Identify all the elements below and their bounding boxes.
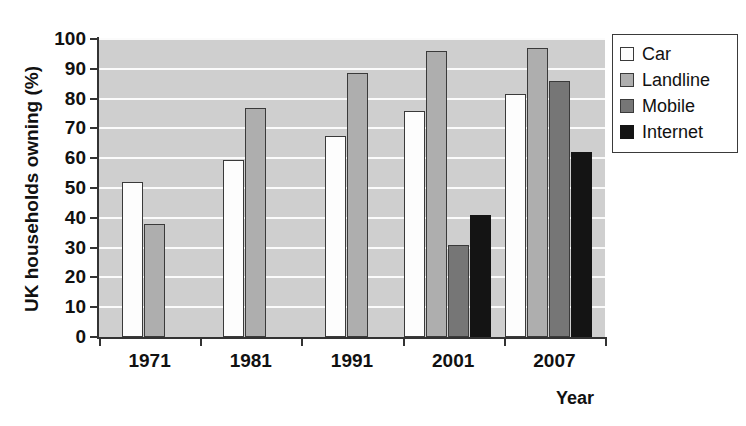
legend-item-mobile: Mobile — [620, 93, 730, 119]
y-tick-mark — [90, 306, 98, 308]
legend-swatch-landline-icon — [620, 73, 634, 87]
y-tick-label: 90 — [26, 59, 86, 78]
bar-chart: UK households owning (%) 010203040506070… — [0, 0, 746, 426]
y-tick-label: 80 — [26, 89, 86, 108]
bar-landline-1971 — [144, 224, 165, 337]
x-axis-title: Year — [556, 388, 594, 409]
legend-swatch-mobile-icon — [620, 99, 634, 113]
bar-car-2007 — [505, 94, 526, 337]
legend-label-mobile: Mobile — [642, 96, 695, 117]
x-tick-label: 1971 — [105, 350, 195, 372]
x-tick-label: 1981 — [206, 350, 296, 372]
y-tick-mark — [90, 157, 98, 159]
x-tick-label: 1991 — [307, 350, 397, 372]
y-tick-mark — [90, 336, 98, 338]
y-tick-mark — [90, 247, 98, 249]
y-tick-label: 100 — [26, 29, 86, 48]
y-tick-mark — [90, 217, 98, 219]
bar-landline-1981 — [245, 108, 266, 337]
y-tick-label: 70 — [26, 118, 86, 137]
bar-landline-1991 — [347, 73, 368, 337]
x-axis-line — [97, 337, 607, 339]
y-tick-mark — [90, 68, 98, 70]
bar-mobile-2007 — [549, 81, 570, 337]
bar-internet-2001 — [470, 215, 491, 337]
legend-label-internet: Internet — [642, 122, 703, 143]
plot-area — [99, 39, 605, 337]
legend-swatch-car-icon — [620, 47, 634, 61]
y-tick-label: 60 — [26, 148, 86, 167]
y-tick-mark — [90, 187, 98, 189]
bar-landline-2007 — [527, 48, 548, 337]
y-tick-mark — [90, 38, 98, 40]
y-tick-label: 10 — [26, 297, 86, 316]
y-tick-mark — [90, 98, 98, 100]
legend-label-landline: Landline — [642, 70, 710, 91]
y-tick-label: 0 — [26, 327, 86, 346]
legend: Car Landline Mobile Internet — [612, 34, 738, 153]
x-tick-mark — [504, 339, 506, 346]
bar-car-1981 — [223, 160, 244, 337]
y-tick-mark — [90, 127, 98, 129]
x-tick-mark — [200, 339, 202, 346]
legend-item-car: Car — [620, 41, 730, 67]
legend-swatch-internet-icon — [620, 125, 634, 139]
y-tick-label: 20 — [26, 267, 86, 286]
bar-car-1971 — [122, 182, 143, 337]
legend-item-internet: Internet — [620, 119, 730, 145]
x-tick-label: 2001 — [408, 350, 498, 372]
x-tick-mark — [301, 339, 303, 346]
gridline — [99, 38, 605, 40]
bar-internet-2007 — [571, 152, 592, 337]
x-tick-mark — [605, 339, 607, 346]
x-tick-label: 2007 — [509, 350, 599, 372]
legend-item-landline: Landline — [620, 67, 730, 93]
x-tick-mark — [403, 339, 405, 346]
y-tick-mark — [90, 276, 98, 278]
y-tick-label: 30 — [26, 238, 86, 257]
y-tick-label: 40 — [26, 208, 86, 227]
bar-landline-2001 — [426, 51, 447, 337]
x-tick-mark — [99, 339, 101, 346]
bar-car-2001 — [404, 111, 425, 337]
y-tick-label: 50 — [26, 178, 86, 197]
bar-mobile-2001 — [448, 245, 469, 337]
legend-label-car: Car — [642, 44, 671, 65]
bar-car-1991 — [325, 136, 346, 337]
